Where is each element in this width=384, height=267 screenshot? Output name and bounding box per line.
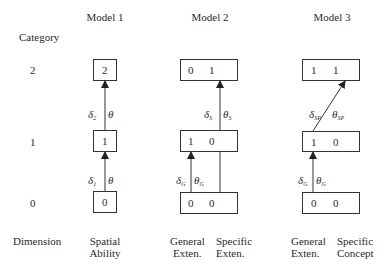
model3-dimension-specific-line1: Specific (337, 235, 373, 247)
box-value-general: 1 (311, 64, 317, 76)
model2-box-level2: 0 1 (180, 59, 238, 81)
model2-lower-delta: δG (176, 174, 185, 190)
box-value-general: 0 (188, 197, 194, 209)
dimension-axis-label: Dimension (13, 235, 61, 247)
model2-dimension-general-line2: Exten. (173, 247, 201, 259)
model1-dimension-line1: Spatial (80, 235, 130, 247)
box-value-specific: 1 (333, 64, 339, 76)
model2-box-level1: 1 0 (180, 130, 238, 152)
model3-title: Model 3 (302, 11, 362, 23)
model1-lower-delta: δ1 (88, 174, 96, 190)
model2-lower-theta: θG (194, 174, 204, 190)
box-value: 1 (102, 135, 108, 147)
model1-lower-theta: θ (108, 174, 113, 186)
model2-dimension-specific-line2: Exten. (216, 247, 244, 259)
category-level-0: 0 (30, 197, 36, 209)
category-axis-label: Category (19, 31, 59, 43)
model2-title: Model 2 (180, 11, 240, 23)
model1-box-level1: 1 (93, 130, 117, 152)
box-value: 2 (102, 64, 108, 76)
box-value-specific: 0 (209, 197, 215, 209)
model2-box-level0: 0 0 (180, 192, 238, 214)
box-value-specific: 0 (209, 135, 215, 147)
model1-title: Model 1 (75, 11, 135, 23)
model3-upper-delta: δSP (309, 108, 321, 124)
model3-box-level1: 1 0 (302, 131, 360, 152)
model1-upper-theta: θ (108, 108, 113, 120)
model3-box-level0: 0 0 (302, 192, 360, 214)
model2-upper-theta: θS (223, 108, 231, 124)
box-value: 0 (102, 196, 108, 208)
box-value-specific: 1 (209, 64, 215, 76)
model3-lower-delta: δG (298, 174, 307, 190)
model2-dimension-specific-line1: Specific (216, 235, 252, 247)
model3-dimension-specific-line2: Concept (337, 247, 374, 259)
model1-upper-delta: δ2 (88, 108, 96, 124)
model3-dimension-general-line2: Exten. (291, 247, 319, 259)
box-value-general: 1 (188, 135, 194, 147)
model2-dimension-general-line1: General (170, 235, 205, 247)
model3-upper-theta: θSP (332, 108, 344, 124)
model1-box-level2: 2 (93, 59, 117, 81)
model3-box-level2: 1 1 (302, 59, 360, 81)
box-value-general: 1 (311, 136, 317, 148)
model2-upper-delta: δS (204, 108, 212, 124)
box-value-general: 0 (188, 64, 194, 76)
model1-dimension-line2: Ability (80, 247, 130, 259)
category-level-2: 2 (30, 64, 36, 76)
category-level-1: 1 (30, 136, 36, 148)
model3-lower-theta: θG (316, 174, 326, 190)
model1-box-level0: 0 (93, 191, 117, 213)
box-value-general: 0 (311, 197, 317, 209)
box-value-specific: 0 (333, 197, 339, 209)
box-value-specific: 0 (333, 136, 339, 148)
model3-dimension-general-line1: General (291, 235, 326, 247)
